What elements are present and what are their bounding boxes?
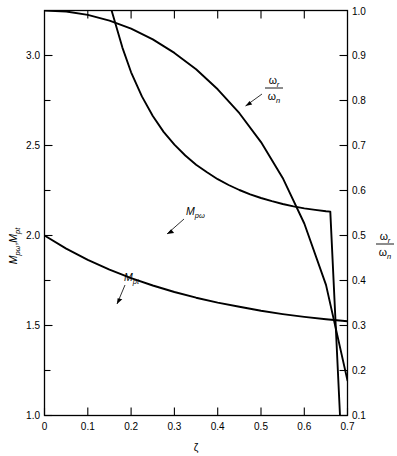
annotation-mpt-base: M xyxy=(124,271,133,283)
y-right-axis-label-num: ω xyxy=(380,230,388,242)
y-left-tick-label: 1.5 xyxy=(26,320,40,331)
annotation-mpt-sub: pt xyxy=(132,277,140,286)
y-left-tick-label: 2.5 xyxy=(26,140,40,151)
y-right-tick-label: 0.8 xyxy=(352,95,366,106)
y-left-axis-label-m1: M xyxy=(7,255,19,264)
y-left-axis-label-s1: pω xyxy=(13,245,22,256)
y-right-tick-label: 0.4 xyxy=(352,275,366,286)
y-right-axis-label-den-sub: n xyxy=(387,252,391,261)
y-left-tick-label: 3.0 xyxy=(26,50,40,61)
x-tick-label: 0 xyxy=(42,421,48,432)
x-axis-label: ζ xyxy=(194,441,199,453)
x-tick-label: 0.6 xyxy=(297,421,311,432)
y-right-tick-label: 0.2 xyxy=(352,365,366,376)
x-tick-label: 0.4 xyxy=(211,421,225,432)
annotation-wr-num: ω xyxy=(269,74,277,86)
y-left-tick-label: 2.0 xyxy=(26,230,40,241)
y-right-tick-label: 0.7 xyxy=(352,140,366,151)
annotation-wr-den: ω xyxy=(268,90,276,102)
x-tick-label: 0.5 xyxy=(254,421,268,432)
y-right-tick-label: 0.5 xyxy=(352,230,366,241)
annotation-wr-den-sub: n xyxy=(276,96,280,105)
y-right-tick-label: 1.0 xyxy=(352,6,366,17)
y-left-axis-label-m2: M xyxy=(7,234,19,243)
y-right-tick-label: 0.3 xyxy=(352,320,366,331)
y-right-tick-label: 0.9 xyxy=(352,50,366,61)
annotation-mpw-base: M xyxy=(186,205,195,217)
chart-background xyxy=(0,0,397,456)
y-left-tick-label: 1.0 xyxy=(26,410,40,421)
x-tick-label: 0.3 xyxy=(167,421,181,432)
x-tick-label: 0.2 xyxy=(124,421,138,432)
x-tick-label: 0.7 xyxy=(341,421,355,432)
y-right-axis-label-den: ω xyxy=(379,246,387,258)
annotation-mpw-sub: pω xyxy=(194,211,205,220)
chart-figure: 1.0 1.5 2.0 2.5 3.0 0.1 0.2 0.3 0.4 0.5 … xyxy=(0,0,397,456)
y-right-tick-label: 0.1 xyxy=(352,410,366,421)
y-left-axis-label-s2: pt xyxy=(13,227,22,235)
y-right-tick-label: 0.6 xyxy=(352,185,366,196)
x-tick-label: 0.1 xyxy=(81,421,95,432)
